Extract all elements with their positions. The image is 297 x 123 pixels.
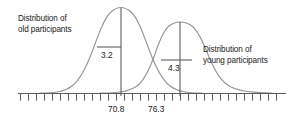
label-old-line1: Distribution of bbox=[18, 14, 71, 25]
normal-distributions-figure: Distribution of old participants Distrib… bbox=[0, 0, 297, 123]
x-tick-label-mean-old: 70.8 bbox=[108, 104, 124, 114]
x-tick-label-mean-young: 76.3 bbox=[148, 104, 164, 114]
label-young-line2: young participants bbox=[203, 56, 268, 67]
label-young-line1: Distribution of bbox=[203, 45, 268, 56]
label-young-participants: Distribution of young participants bbox=[203, 45, 268, 66]
sd-value-old: 3.2 bbox=[101, 50, 113, 60]
sd-value-young: 4.3 bbox=[168, 63, 180, 73]
label-old-participants: Distribution of old participants bbox=[18, 14, 71, 35]
label-old-line2: old participants bbox=[18, 25, 71, 36]
x-axis-ticks bbox=[21, 94, 277, 101]
